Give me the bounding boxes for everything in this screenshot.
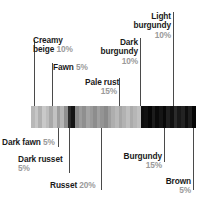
callout-line: 5% bbox=[18, 164, 63, 173]
callout-name: Fawn bbox=[53, 62, 74, 72]
callout-line: Russet 20% bbox=[50, 181, 96, 190]
callout-light-burgundy: Lightburgundy10% bbox=[124, 12, 171, 40]
color-stripe bbox=[192, 106, 196, 128]
callout-dark-burgundy: Darkburgundy10% bbox=[94, 38, 138, 66]
leader-line bbox=[140, 38, 141, 106]
callout-name: Russet bbox=[50, 180, 77, 190]
callout-percent: 15% bbox=[101, 86, 117, 96]
callout-percent: 10% bbox=[122, 56, 138, 66]
callout-percent: 10% bbox=[155, 30, 171, 40]
callout-percent: 15% bbox=[146, 160, 162, 170]
callout-percent: 20% bbox=[77, 180, 96, 190]
callout-line: Fawn 5% bbox=[53, 63, 88, 72]
callout-dark-fawn: Dark fawn 5% bbox=[2, 138, 55, 147]
callout-line: Dark fawn 5% bbox=[2, 138, 55, 147]
color-proportion-bar bbox=[31, 106, 196, 128]
callout-creamy-beige: Creamybeige 10% bbox=[33, 36, 73, 55]
leader-line bbox=[164, 128, 165, 162]
callout-name: beige bbox=[33, 44, 54, 54]
callout-percent: 5% bbox=[41, 137, 55, 147]
callout-burgundy: Burgundy15% bbox=[108, 152, 162, 171]
callout-line: beige 10% bbox=[33, 45, 73, 54]
leader-line bbox=[58, 128, 59, 147]
callout-dark-russet: Dark russet5% bbox=[18, 155, 63, 174]
callout-pale-rust: Pale rust15% bbox=[85, 78, 117, 97]
callout-line: 5% bbox=[128, 186, 191, 195]
leader-line bbox=[101, 128, 102, 190]
callout-percent: 5% bbox=[18, 163, 30, 173]
callout-name: Dark fawn bbox=[2, 137, 41, 147]
callout-fawn: Fawn 5% bbox=[53, 63, 88, 72]
callout-percent: 5% bbox=[74, 62, 88, 72]
leader-line bbox=[69, 128, 70, 173]
callout-russet: Russet 20% bbox=[50, 181, 96, 190]
callout-line: 10% bbox=[94, 57, 138, 66]
callout-percent: 10% bbox=[54, 44, 73, 54]
callout-line: 10% bbox=[124, 31, 171, 40]
callout-brown: Brown5% bbox=[128, 177, 191, 196]
callout-line: 15% bbox=[85, 87, 117, 96]
callout-line: 15% bbox=[108, 161, 162, 170]
leader-line bbox=[193, 128, 194, 190]
leader-line bbox=[173, 12, 174, 106]
callout-percent: 5% bbox=[179, 185, 191, 195]
color-proportion-figure: Creamybeige 10%Fawn 5%Pale rust15%Darkbu… bbox=[0, 0, 203, 201]
